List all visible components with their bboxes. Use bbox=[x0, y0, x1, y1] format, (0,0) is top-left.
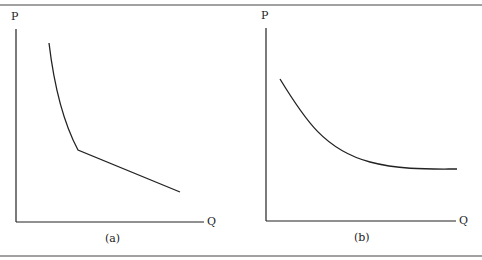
y-axis-label-a: P bbox=[11, 11, 18, 22]
caption-b: (b) bbox=[354, 232, 370, 243]
diagram-canvas bbox=[0, 0, 482, 260]
y-axis-label-b: P bbox=[261, 10, 268, 21]
kinked-demand-curve bbox=[49, 43, 180, 192]
x-axis-label-b: Q bbox=[459, 215, 468, 226]
smooth-demand-curve bbox=[280, 79, 457, 169]
panel-b bbox=[266, 28, 457, 221]
panel-a bbox=[16, 29, 204, 222]
x-axis-label-a: Q bbox=[207, 216, 216, 227]
caption-a: (a) bbox=[105, 233, 120, 244]
